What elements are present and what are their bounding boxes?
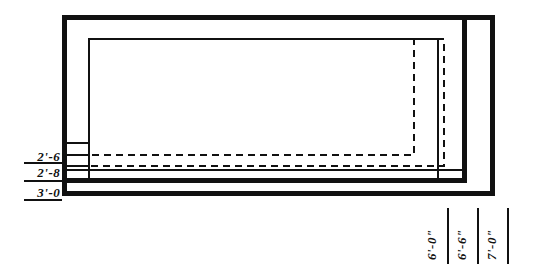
dashed-small-outline — [89, 39, 414, 155]
dimension-label-3-0: 3'-0" — [22, 185, 68, 201]
inner-rectangle-outline — [89, 39, 438, 180]
technical-drawing-figure: 2'-6" 2'-8" 3'-0" 6'-0" 6'-6" 7'-0" — [0, 0, 538, 270]
dashed-large-outline — [89, 39, 444, 166]
dimension-label-6-6: 6'-6" — [454, 214, 470, 260]
dimension-label-6-0: 6'-0" — [424, 214, 440, 260]
dimension-label-2-6: 2'-6" — [22, 149, 68, 165]
dashed-small-path — [89, 39, 414, 155]
dimension-label-2-8: 2'-8" — [22, 165, 68, 181]
dimension-label-7-0: 7'-0" — [484, 214, 500, 260]
dashed-large-path — [89, 39, 444, 166]
inner-rectangle-path — [89, 39, 438, 180]
